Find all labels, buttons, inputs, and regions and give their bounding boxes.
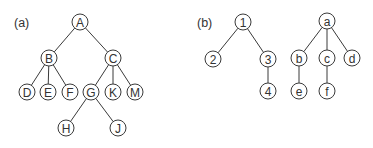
tree-node-G: G	[83, 84, 99, 100]
edge-C-G	[95, 65, 108, 86]
tree-node-n4: 4	[260, 83, 276, 99]
edge-B-E	[48, 66, 49, 84]
tree-panel-a: (a)ABCDEFGKMHJ	[14, 14, 143, 136]
tree-node-B: B	[41, 50, 57, 66]
node-label: b	[296, 52, 303, 66]
edge-n1-n2	[218, 28, 238, 53]
tree-node-e: e	[291, 83, 307, 99]
panel-label: (b)	[197, 16, 212, 30]
tree-diagram: (a)ABCDEFGKMHJ(b)1234abcdef	[0, 0, 373, 148]
node-label: c	[324, 52, 330, 66]
tree-node-M: M	[127, 84, 143, 100]
edge-a-b	[304, 27, 322, 51]
node-label: a	[324, 15, 331, 29]
edge-n1-n3	[247, 29, 263, 53]
edge-B-F	[53, 65, 66, 85]
node-label: H	[62, 122, 71, 136]
edge-A-C	[85, 28, 107, 52]
node-label: G	[86, 86, 95, 100]
tree-node-b: b	[291, 50, 307, 66]
edge-B-D	[31, 65, 44, 86]
tree-node-n1: 1	[235, 14, 251, 30]
tree-node-H: H	[58, 120, 74, 136]
edge-A-B	[54, 28, 75, 52]
node-label: E	[44, 86, 52, 100]
edge-C-M	[117, 65, 130, 86]
node-label: C	[109, 52, 118, 66]
tree-node-a: a	[319, 13, 335, 29]
node-label: F	[66, 86, 73, 100]
node-label: 1	[240, 16, 247, 30]
edge-a-d	[331, 28, 347, 52]
node-label: 4	[265, 85, 272, 99]
edge-G-J	[96, 98, 113, 121]
node-label: d	[349, 52, 356, 66]
tree-node-F: F	[62, 84, 78, 100]
node-label: e	[296, 85, 303, 99]
node-label: M	[130, 86, 140, 100]
node-label: 3	[265, 53, 272, 67]
tree-node-n3: 3	[260, 51, 276, 67]
edge-G-H	[71, 99, 87, 122]
node-label: 2	[210, 53, 217, 67]
tree-node-f: f	[319, 83, 335, 99]
panel-label: (a)	[14, 16, 29, 30]
node-label: K	[109, 86, 117, 100]
tree-node-J: J	[110, 120, 126, 136]
tree-node-K: K	[105, 84, 121, 100]
tree-node-A: A	[72, 14, 88, 30]
tree-node-n2: 2	[205, 51, 221, 67]
tree-node-d: d	[344, 50, 360, 66]
node-label: J	[115, 122, 121, 136]
node-label: B	[45, 52, 53, 66]
tree-node-D: D	[19, 84, 35, 100]
tree-node-c: c	[319, 50, 335, 66]
tree-node-C: C	[105, 50, 121, 66]
tree-panel-b: (b)1234abcdef	[197, 13, 360, 99]
node-label: D	[23, 86, 32, 100]
node-label: A	[76, 16, 84, 30]
tree-node-E: E	[40, 84, 56, 100]
